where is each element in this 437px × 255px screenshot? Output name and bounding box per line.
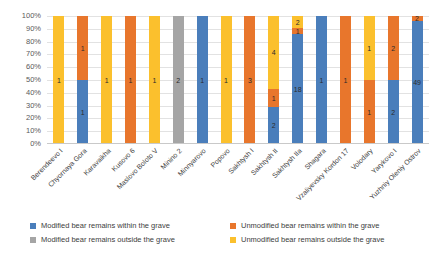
bar-segment-value: 1 bbox=[343, 77, 347, 84]
stacked-bar[interactable]: 2118 bbox=[292, 16, 303, 144]
legend-label: Modified bear remains outside the grave bbox=[41, 236, 175, 244]
bar-segment[interactable]: 1 bbox=[364, 80, 375, 144]
stacked-bar[interactable]: 2 bbox=[173, 16, 184, 144]
stacked-bar[interactable]: 1 bbox=[340, 16, 351, 144]
bar-segment[interactable]: 2 bbox=[268, 107, 279, 144]
bar-slot: 2 bbox=[166, 16, 190, 144]
bar-slot: 2118 bbox=[286, 16, 310, 144]
bar-slot: 249 bbox=[405, 16, 429, 144]
bar-segment[interactable]: 1 bbox=[316, 16, 327, 144]
bar-segment[interactable]: 1 bbox=[197, 16, 208, 144]
bar-segment-value: 1 bbox=[272, 95, 276, 102]
stacked-bar[interactable]: 3 bbox=[244, 16, 255, 144]
x-axis: Berendeevo IChyornaya GoraKaravaikhaKuso… bbox=[47, 145, 429, 207]
bar-segment[interactable]: 3 bbox=[244, 16, 255, 144]
bar-slot: 11 bbox=[71, 16, 95, 144]
bar-segment[interactable]: 1 bbox=[77, 80, 88, 144]
bar-segment[interactable]: 2 bbox=[292, 16, 303, 28]
stacked-bar[interactable]: 11 bbox=[364, 16, 375, 144]
legend-swatch-icon bbox=[230, 237, 236, 243]
bar-segment[interactable]: 1 bbox=[340, 16, 351, 144]
y-axis-tick-label: 50% bbox=[26, 76, 41, 84]
stacked-bar[interactable]: 1 bbox=[149, 16, 160, 144]
bar-segment[interactable]: 1 bbox=[268, 89, 279, 107]
y-axis-tick-label: 90% bbox=[26, 25, 41, 33]
bar-slot: 1 bbox=[190, 16, 214, 144]
x-axis-slot: Sakhtysh I bbox=[238, 145, 262, 207]
bar-group: 11111121134122118111122249 bbox=[47, 16, 429, 144]
legend-item[interactable]: Unmodified bear remains outside the grav… bbox=[230, 233, 430, 247]
x-axis-slot: Vzaliyevsky Kordon 17 bbox=[334, 145, 358, 207]
bar-segment[interactable]: 49 bbox=[412, 21, 423, 144]
stacked-bar[interactable]: 1 bbox=[101, 16, 112, 144]
bar-slot: 1 bbox=[214, 16, 238, 144]
stacked-bar[interactable]: 1 bbox=[53, 16, 64, 144]
y-axis-tick-label: 20% bbox=[26, 115, 41, 123]
legend-swatch-icon bbox=[30, 223, 36, 229]
stacked-bar[interactable]: 1 bbox=[221, 16, 232, 144]
bar-segment[interactable]: 2 bbox=[173, 16, 184, 144]
bar-segment-value: 1 bbox=[320, 77, 324, 84]
bar-segment[interactable]: 1 bbox=[101, 16, 112, 144]
stacked-bar[interactable]: 1 bbox=[316, 16, 327, 144]
bar-segment-value: 2 bbox=[272, 122, 276, 129]
y-axis-tick-label: 60% bbox=[26, 63, 41, 71]
bar-segment-value: 1 bbox=[81, 45, 85, 52]
bar-segment-value: 1 bbox=[152, 77, 156, 84]
bar-slot: 1 bbox=[310, 16, 334, 144]
bar-segment[interactable]: 1 bbox=[125, 16, 136, 144]
x-axis-slot: Minino 2 bbox=[166, 145, 190, 207]
bar-segment[interactable]: 2 bbox=[388, 80, 399, 144]
y-axis-tick-label: 10% bbox=[26, 127, 41, 135]
bar-segment-value: 1 bbox=[200, 77, 204, 84]
bar-slot: 1 bbox=[334, 16, 358, 144]
x-axis-slot: Maslovo Boloto V bbox=[143, 145, 167, 207]
bar-segment[interactable]: 2 bbox=[388, 16, 399, 80]
bar-slot: 11 bbox=[357, 16, 381, 144]
stacked-bar[interactable]: 1 bbox=[125, 16, 136, 144]
legend-label: Unmodified bear remains within the grave bbox=[241, 222, 379, 230]
x-axis-slot: Karavaikha bbox=[95, 145, 119, 207]
y-axis-tick-label: 80% bbox=[26, 38, 41, 46]
y-axis-tick-label: 0% bbox=[30, 140, 41, 148]
bar-slot: 1 bbox=[143, 16, 167, 144]
stacked-bar[interactable]: 412 bbox=[268, 16, 279, 144]
stacked-bar[interactable]: 22 bbox=[388, 16, 399, 144]
x-axis-slot: Popovo bbox=[214, 145, 238, 207]
bar-segment-value: 2 bbox=[176, 77, 180, 84]
stacked-bar[interactable]: 11 bbox=[77, 16, 88, 144]
y-axis: 100%90%80%70%60%50%40%30%20%10%0% bbox=[0, 16, 45, 144]
legend-item[interactable]: Modified bear remains within the grave bbox=[30, 219, 230, 233]
bar-segment-value: 1 bbox=[57, 77, 61, 84]
bar-segment-value: 1 bbox=[367, 45, 371, 52]
bar-segment[interactable]: 18 bbox=[292, 34, 303, 144]
y-axis-tick-label: 40% bbox=[26, 89, 41, 97]
legend-label: Modified bear remains within the grave bbox=[41, 222, 170, 230]
stacked-bar-chart: 100%90%80%70%60%50%40%30%20%10%0% 111111… bbox=[0, 0, 437, 255]
bar-slot: 22 bbox=[381, 16, 405, 144]
bar-segment[interactable]: 1 bbox=[221, 16, 232, 144]
legend-item[interactable]: Unmodified bear remains within the grave bbox=[230, 219, 430, 233]
bar-segment-value: 1 bbox=[224, 77, 228, 84]
legend-label: Unmodified bear remains outside the grav… bbox=[241, 236, 384, 244]
bar-segment-value: 1 bbox=[129, 77, 133, 84]
y-axis-tick-label: 100% bbox=[22, 12, 41, 20]
bar-segment-value: 1 bbox=[367, 109, 371, 116]
bar-segment[interactable]: 1 bbox=[53, 16, 64, 144]
bar-slot: 1 bbox=[47, 16, 71, 144]
x-axis-slot: Minnyarovo bbox=[190, 145, 214, 207]
bar-segment[interactable]: 1 bbox=[77, 16, 88, 80]
legend-item[interactable]: Modified bear remains outside the grave bbox=[30, 233, 230, 247]
bar-segment[interactable]: 1 bbox=[149, 16, 160, 144]
bar-segment-value: 2 bbox=[296, 19, 300, 26]
legend-swatch-icon bbox=[30, 237, 36, 243]
x-axis-slot: Chyornaya Gora bbox=[71, 145, 95, 207]
stacked-bar[interactable]: 249 bbox=[412, 16, 423, 144]
bar-segment[interactable]: 4 bbox=[268, 16, 279, 89]
bar-segment-value: 18 bbox=[294, 86, 302, 93]
chart-legend: Modified bear remains within the graveUn… bbox=[30, 219, 430, 247]
bar-segment-value: 2 bbox=[391, 109, 395, 116]
stacked-bar[interactable]: 1 bbox=[197, 16, 208, 144]
bar-segment-value: 1 bbox=[81, 109, 85, 116]
bar-segment[interactable]: 1 bbox=[364, 16, 375, 80]
